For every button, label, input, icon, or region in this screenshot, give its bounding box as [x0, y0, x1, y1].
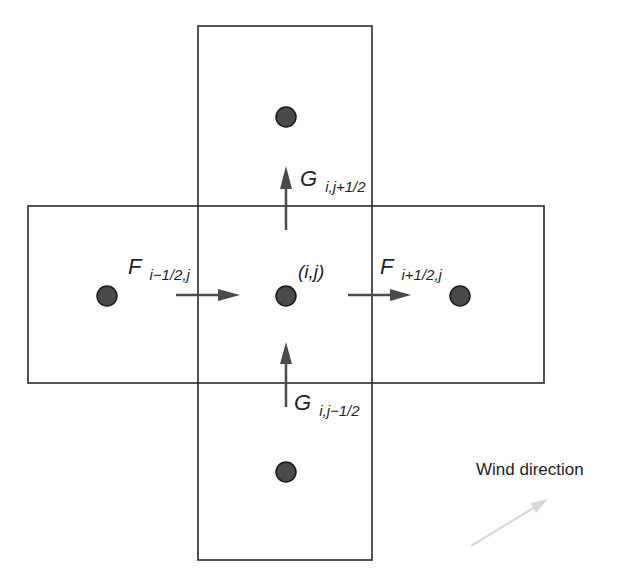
cell-center-north-dot	[276, 107, 296, 127]
flux-subscript: i,j−1/2	[319, 402, 359, 419]
cell-label-ij: (i,j)	[298, 262, 324, 281]
flux-label-g-north: Gi,j+1/2	[300, 168, 366, 190]
flux-arrow-east-icon	[348, 289, 411, 301]
cell-center-east-dot	[450, 286, 470, 306]
flux-symbol: G	[300, 166, 317, 191]
cell-center-south-dot	[276, 462, 296, 482]
stencil-diagram: Fi−1/2,j Fi+1/2,j Gi,j+1/2 Gi,j−1/2 (i,j…	[0, 0, 635, 586]
diagram-canvas	[0, 0, 635, 586]
flux-symbol: F	[380, 254, 393, 279]
flux-arrow-west-icon	[176, 289, 240, 301]
flux-subscript: i+1/2,j	[401, 266, 441, 283]
cell-center-west-dot	[97, 286, 117, 306]
flux-arrow-north-icon	[280, 166, 292, 230]
flux-symbol: G	[294, 390, 311, 415]
cell-center-ij-dot	[276, 286, 296, 306]
flux-label-f-east: Fi+1/2,j	[380, 256, 442, 278]
flux-subscript: i,j+1/2	[325, 178, 365, 195]
flux-arrow-south-icon	[280, 342, 292, 407]
wind-direction-arrow-icon	[471, 499, 548, 546]
flux-symbol: F	[128, 254, 141, 279]
flux-label-g-south: Gi,j−1/2	[294, 392, 360, 414]
flux-label-f-west: Fi−1/2,j	[128, 256, 190, 278]
wind-direction-label: Wind direction	[476, 461, 584, 478]
flux-subscript: i−1/2,j	[149, 266, 189, 283]
